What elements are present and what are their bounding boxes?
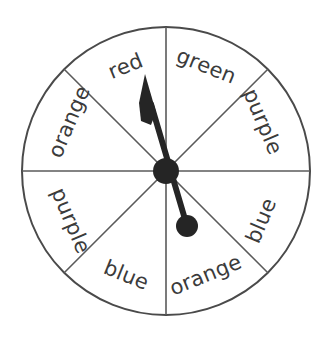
pointer-counterweight — [176, 215, 198, 237]
spinner-wheel[interactable]: green purple blue orange blue purple ora… — [0, 0, 323, 339]
pointer-hub[interactable] — [153, 158, 179, 184]
spinner-figure: green purple blue orange blue purple ora… — [0, 0, 323, 339]
